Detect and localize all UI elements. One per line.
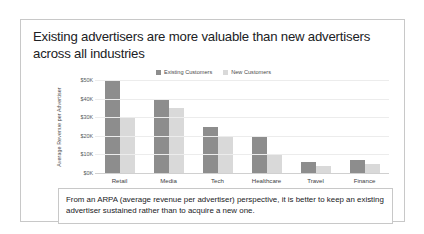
gridline: [95, 136, 389, 137]
x-axis-tick-label: Tech: [197, 177, 239, 184]
y-axis-tick-labels: $0K$10K$20K$30K$40K$50K: [67, 80, 93, 174]
page-title: Existing advertisers are more valuable t…: [33, 29, 395, 62]
gridline: [95, 80, 389, 81]
y-axis-tick-label: $20K: [80, 133, 93, 139]
legend-item-new-customers: New Customers: [223, 69, 271, 75]
x-axis-tick-label: Media: [148, 177, 190, 184]
x-axis-tick-label: Healthcare: [246, 177, 288, 184]
bar-new[interactable]: [267, 154, 282, 173]
y-axis-tick-label: $50K: [80, 77, 93, 83]
bar-group: [350, 80, 380, 173]
x-axis-tick-label: Finance: [344, 177, 386, 184]
x-axis-tick-labels: RetailMediaTechHealthcareTravelFinance: [95, 177, 389, 184]
bar-group: [203, 80, 233, 173]
legend-item-existing-customers: Existing Customers: [156, 69, 212, 75]
bar-groups: [95, 80, 389, 173]
gridline: [95, 99, 389, 100]
y-axis-tick-label: $30K: [80, 114, 93, 120]
plot-area: [95, 80, 389, 174]
y-axis-tick-label: $10K: [80, 151, 93, 157]
bar-existing[interactable]: [203, 127, 218, 174]
gridline: [95, 117, 389, 118]
y-axis-title: Average Revenue per Advertiser: [54, 80, 64, 174]
legend-swatch-icon-existing: [156, 70, 161, 75]
legend-label-new: New Customers: [231, 69, 271, 75]
bar-group: [301, 80, 331, 173]
y-axis-tick-label: $40K: [80, 96, 93, 102]
y-axis-tick-label: $0K: [83, 170, 93, 176]
x-axis-tick-label: Travel: [295, 177, 337, 184]
chart-legend: Existing Customers New Customers: [21, 69, 406, 75]
bar-chart: Average Revenue per Advertiser $0K$10K$2…: [59, 80, 389, 190]
legend-label-existing: Existing Customers: [164, 69, 212, 75]
x-axis-line: [95, 173, 389, 174]
bar-new[interactable]: [120, 118, 135, 173]
footnote-callout: From an ARPA (average revenue per advert…: [58, 188, 393, 224]
bar-new[interactable]: [316, 166, 331, 173]
bar-new[interactable]: [365, 164, 380, 173]
bar-group: [252, 80, 282, 173]
bar-existing[interactable]: [301, 162, 316, 173]
legend-swatch-icon-new: [223, 70, 228, 75]
bar-existing[interactable]: [105, 80, 120, 173]
bar-existing[interactable]: [350, 160, 365, 173]
gridline: [95, 154, 389, 155]
x-axis-tick-label: Retail: [99, 177, 141, 184]
bar-group: [105, 80, 135, 173]
slide-frame: Existing advertisers are more valuable t…: [20, 19, 405, 222]
bar-group: [154, 80, 184, 173]
